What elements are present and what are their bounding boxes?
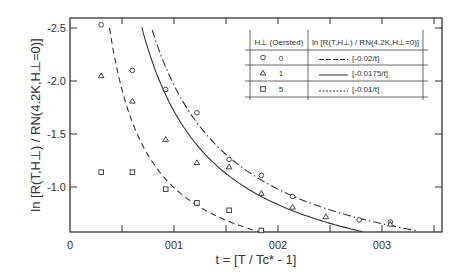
circle-marker	[259, 173, 264, 178]
legend-field-value: 5	[279, 85, 284, 94]
square-marker	[261, 87, 266, 92]
square-marker	[259, 228, 264, 233]
circle-marker	[99, 23, 104, 28]
x-tick-label: 003	[373, 239, 391, 251]
circle-marker	[290, 194, 295, 199]
x-tick-label: 001	[165, 239, 183, 251]
legend-header-field: H⊥ (Oersted)	[255, 38, 304, 47]
y-axis-title: ln [R(T,H⊥) / RN(4.2K,H⊥=0)]	[28, 38, 43, 211]
triangle-marker	[259, 191, 265, 196]
circle-marker	[130, 68, 135, 73]
legend-field-value: 1	[279, 69, 284, 78]
y-tick-label: -1.5	[47, 128, 66, 140]
square-marker	[163, 187, 168, 192]
x-axis-title: t = [T / Tc* - 1]	[216, 252, 297, 267]
legend-formula: [-0.02/t]	[352, 54, 379, 63]
x-tick-label: 0	[67, 239, 73, 251]
triangle-marker	[163, 137, 169, 142]
square-marker	[99, 170, 104, 175]
legend: H⊥ (Oersted)ln [R(T,H⊥) / RN(4.2K,H⊥=0)]…	[245, 30, 428, 100]
square-marker	[130, 170, 135, 175]
triangle-marker	[226, 164, 232, 169]
triangle-marker	[98, 73, 104, 78]
y-tick-label: -2.0	[47, 75, 66, 87]
y-tick-label: -1.0	[47, 181, 66, 193]
legend-field-value: 0	[279, 54, 284, 63]
circle-marker	[227, 157, 232, 162]
triangle-marker	[130, 98, 136, 103]
y-tick-label: -2.5	[47, 22, 66, 34]
x-tick-label: 002	[269, 239, 287, 251]
square-marker	[227, 208, 232, 213]
triangle-marker	[194, 160, 200, 165]
legend-formula: [-0.0175/t]	[352, 69, 388, 78]
square-marker	[195, 201, 200, 206]
triangle-marker	[290, 204, 296, 209]
triangle-marker	[323, 214, 329, 219]
legend-header-formula: ln [R(T,H⊥) / RN(4.2K,H⊥=0)]	[312, 38, 419, 47]
fit-curve-dashed	[110, 28, 259, 231]
circle-marker	[261, 55, 266, 60]
circle-marker	[195, 111, 200, 116]
circle-marker	[357, 218, 362, 223]
circle-marker	[163, 87, 168, 92]
legend-formula: [-0.01/t]	[352, 85, 379, 94]
chart: 0001002003 -2.5-2.0-1.5-1.0 H⊥ (Oersted)…	[0, 0, 463, 278]
